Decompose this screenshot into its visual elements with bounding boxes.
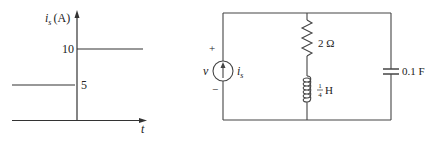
plus-sign: + bbox=[209, 42, 215, 54]
y-axis-arrow-icon bbox=[75, 10, 80, 18]
minus-sign: − bbox=[212, 83, 218, 95]
source-current-label: is bbox=[237, 64, 243, 80]
y-axis-label: is(A) bbox=[45, 11, 70, 27]
inductor-unit: H bbox=[325, 84, 333, 96]
tick-label-5: 5 bbox=[81, 78, 87, 92]
inductor-label: 1 4 H bbox=[317, 82, 333, 99]
circuit bbox=[213, 13, 399, 120]
tick-label-10: 10 bbox=[62, 42, 74, 56]
capacitor-label: 0.1 F bbox=[402, 65, 425, 77]
current-source-arrow-icon bbox=[221, 62, 226, 68]
voltage-label: v bbox=[203, 64, 209, 78]
figure: is(A) 10 5 t + − v is 2 Ω bbox=[0, 0, 436, 141]
graph-labels: is(A) 10 5 t bbox=[45, 11, 145, 136]
t-axis-label: t bbox=[141, 122, 145, 136]
inductor-icon bbox=[303, 76, 311, 107]
inductor-frac-den: 4 bbox=[318, 91, 322, 99]
inductor-frac-num: 1 bbox=[318, 82, 322, 90]
resistor-icon bbox=[302, 20, 312, 56]
current-step-graph bbox=[12, 10, 147, 123]
resistor-label: 2 Ω bbox=[318, 37, 334, 49]
